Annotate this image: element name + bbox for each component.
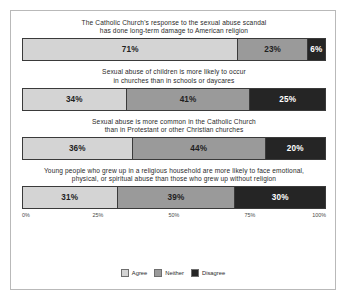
x-axis: 0% 25% 50% 75% 100%: [22, 210, 326, 222]
legend-item-neither: Neither: [154, 269, 184, 277]
question-label-3-line2: than in Protestant or other Christian ch…: [24, 126, 324, 134]
question-label-3-line1: Sexual abuse is more common in the Catho…: [24, 118, 324, 126]
question-label-2: Sexual abuse of children is more likely …: [22, 68, 326, 87]
question-label-2-line2: in churches than in schools or daycares: [24, 77, 324, 85]
legend-swatch-neither-icon: [154, 269, 162, 277]
bar-2-segment-disagree: 25%: [249, 89, 325, 110]
question-label-1: The Catholic Church's response to the se…: [22, 19, 326, 38]
question-label-1-line1: The Catholic Church's response to the se…: [24, 19, 324, 27]
bar-2-segment-neither: 41%: [126, 89, 250, 110]
bar-3-segment-neither: 44%: [132, 138, 265, 159]
bar-4-segment-neither: 39%: [117, 187, 235, 208]
chart-legend: Agree Neither Disagree: [11, 269, 335, 277]
bar-group-3: Sexual abuse is more common in the Catho…: [22, 118, 326, 160]
bar-4-segment-disagree: 30%: [234, 187, 325, 208]
question-label-2-line1: Sexual abuse of children is more likely …: [24, 68, 324, 76]
x-tick-0: 0%: [22, 212, 30, 218]
legend-label-agree: Agree: [132, 270, 147, 276]
bar-1-segment-agree: 71%: [23, 39, 237, 60]
stacked-bar-1: 71% 23% 6%: [22, 38, 326, 61]
bar-3-segment-disagree: 20%: [265, 138, 325, 159]
bar-3-segment-agree: 36%: [23, 138, 132, 159]
bar-4-segment-agree: 31%: [23, 187, 117, 208]
stacked-bar-2: 34% 41% 25%: [22, 88, 326, 111]
question-label-3: Sexual abuse is more common in the Catho…: [22, 118, 326, 137]
legend-swatch-disagree-icon: [191, 269, 199, 277]
question-label-4-line2: physical, or spiritual abuse than those …: [24, 175, 324, 183]
chart-figure: The Catholic Church's response to the se…: [10, 10, 336, 290]
x-tick-75: 75%: [245, 212, 256, 218]
bar-group-4: Young people who grew up in a religious …: [22, 167, 326, 209]
stacked-bar-4: 31% 39% 30%: [22, 186, 326, 209]
legend-label-neither: Neither: [165, 270, 184, 276]
bar-group-1: The Catholic Church's response to the se…: [22, 19, 326, 61]
legend-swatch-agree-icon: [121, 269, 129, 277]
x-tick-25: 25%: [93, 212, 104, 218]
bar-1-segment-neither: 23%: [237, 39, 306, 60]
x-tick-50: 50%: [169, 212, 180, 218]
x-tick-100: 100%: [312, 212, 326, 218]
question-label-4-line1: Young people who grew up in a religious …: [24, 167, 324, 175]
legend-label-disagree: Disagree: [202, 270, 225, 276]
bar-group-2: Sexual abuse of children is more likely …: [22, 68, 326, 110]
legend-item-disagree: Disagree: [191, 269, 225, 277]
question-label-1-line2: has done long-term damage to American re…: [24, 27, 324, 35]
bar-1-segment-disagree: 6%: [307, 39, 325, 60]
plot-area: The Catholic Church's response to the se…: [22, 19, 326, 249]
legend-item-agree: Agree: [121, 269, 147, 277]
stacked-bar-3: 36% 44% 20%: [22, 137, 326, 160]
question-label-4: Young people who grew up in a religious …: [22, 167, 326, 186]
bar-2-segment-agree: 34%: [23, 89, 126, 110]
